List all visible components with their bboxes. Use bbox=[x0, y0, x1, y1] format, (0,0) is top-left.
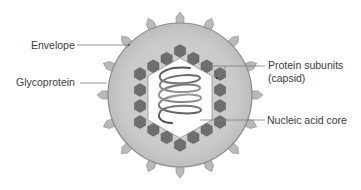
capsid-label: (capsid) bbox=[268, 72, 305, 84]
protein-subunits-label: Protein subunits bbox=[268, 59, 343, 71]
envelope-pointer-dot bbox=[128, 44, 130, 46]
capsid-pointer-dot bbox=[216, 77, 218, 79]
glycoprotein-spike-icon bbox=[251, 91, 263, 99]
glycoprotein-spike-icon bbox=[176, 12, 184, 24]
glycoprotein-spike-icon bbox=[176, 166, 184, 178]
glycoprotein-spike-icon bbox=[97, 91, 109, 99]
envelope-label: Envelope bbox=[31, 39, 75, 51]
virus-illustration bbox=[0, 0, 361, 190]
glycoprotein-label: Glycoprotein bbox=[16, 76, 75, 88]
nucleic-acid-core-label: Nucleic acid core bbox=[267, 114, 347, 126]
virus-diagram: Envelope Glycoprotein Protein subunits (… bbox=[0, 0, 361, 190]
